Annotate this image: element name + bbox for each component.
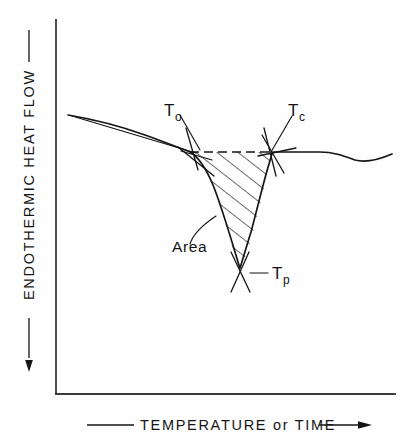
- conclusion-leader-line: [271, 116, 292, 152]
- dsc-chart-svg: T o T c T p Area ENDOTHERMIC HEAT FLOW T…: [0, 0, 409, 442]
- onset-tangent-leading: [186, 128, 198, 170]
- x-axis-label-group: TEMPERATURE or TIME: [87, 417, 372, 433]
- peak-temperature-subscript: p: [283, 273, 290, 287]
- conclusion-temperature-subscript: c: [299, 110, 305, 124]
- onset-temperature-label: T: [164, 101, 175, 120]
- onset-leader-line: [180, 115, 200, 150]
- x-axis-arrow-icon: [358, 421, 372, 429]
- y-axis-label: ENDOTHERMIC HEAT FLOW: [21, 69, 37, 300]
- conclusion-temperature-label: T: [288, 101, 299, 120]
- area-label: Area: [172, 238, 207, 255]
- dsc-thermogram-figure: T o T c T p Area ENDOTHERMIC HEAT FLOW T…: [0, 0, 409, 442]
- y-axis-arrow-icon: [25, 360, 33, 372]
- peak-temperature-label: T: [272, 264, 283, 283]
- onset-temperature-subscript: o: [175, 110, 182, 124]
- y-axis-label-group: ENDOTHERMIC HEAT FLOW: [21, 30, 37, 372]
- x-axis-label: TEMPERATURE or TIME: [140, 417, 336, 433]
